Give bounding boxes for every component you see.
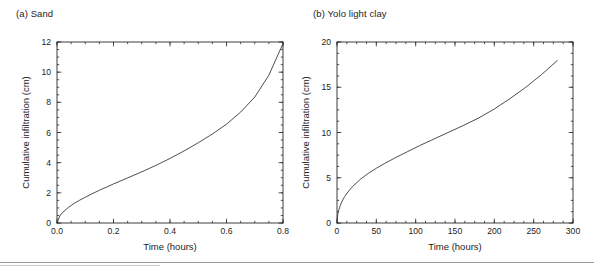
x-tick-label: 150 (448, 226, 463, 236)
yolo-clay-infiltration-curve (337, 61, 557, 223)
y-tick-label: 15 (321, 82, 331, 92)
x-tick-label: 0.0 (51, 226, 63, 236)
y-tick-label: 20 (321, 37, 331, 47)
y-tick-label: 4 (46, 158, 51, 168)
x-tick-label: 100 (408, 226, 423, 236)
y-tick-label: 6 (46, 128, 51, 138)
panel-a-ylabel: Cumulative infiltration (cm) (20, 76, 31, 188)
plot-frame (57, 42, 283, 223)
x-tick-label: 200 (487, 226, 502, 236)
panel-sand: (a) Sand 0.00.20.40.60.8024681012 Time (… (0, 0, 297, 270)
y-tick-label: 10 (321, 128, 331, 138)
x-tick-label: 300 (566, 226, 581, 236)
figure-container: (a) Sand 0.00.20.40.60.8024681012 Time (… (0, 0, 594, 270)
footer-divider (0, 262, 594, 263)
panel-b-plot: 05010015020025030005101520 Time (hours) … (297, 0, 594, 270)
x-tick-label: 0.4 (164, 226, 176, 236)
panel-b-xlabel: Time (hours) (428, 241, 482, 252)
y-tick-label: 10 (41, 67, 51, 77)
x-tick-label: 0.6 (221, 226, 233, 236)
panel-b-ylabel: Cumulative infiltration (cm) (300, 76, 311, 188)
x-tick-label: 0.2 (108, 226, 120, 236)
y-tick-label: 0 (326, 218, 331, 228)
x-tick-label: 0.8 (277, 226, 289, 236)
x-tick-label: 0 (335, 226, 340, 236)
panel-a-plot: 0.00.20.40.60.8024681012 Time (hours) Cu… (0, 0, 297, 270)
panel-yolo-light-clay: (b) Yolo light clay 05010015020025030005… (297, 0, 594, 270)
y-tick-label: 12 (41, 37, 51, 47)
y-tick-label: 8 (46, 97, 51, 107)
x-tick-label: 250 (526, 226, 541, 236)
y-tick-label: 5 (326, 173, 331, 183)
sand-infiltration-curve (57, 44, 283, 223)
footer-divider-secondary (0, 265, 160, 266)
panel-a-xlabel: Time (hours) (143, 241, 197, 252)
y-tick-label: 0 (46, 218, 51, 228)
x-tick-label: 50 (372, 226, 382, 236)
y-tick-label: 2 (46, 188, 51, 198)
plot-frame (337, 42, 573, 223)
